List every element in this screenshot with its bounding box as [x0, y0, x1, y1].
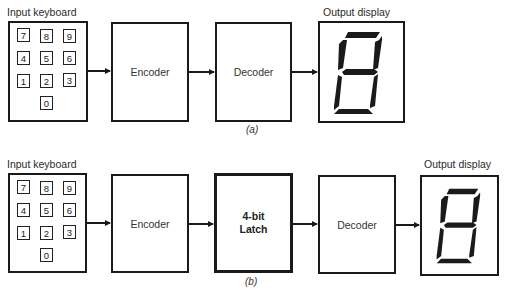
decoder-label: Decoder	[234, 66, 274, 78]
latch-block: 4-bit Latch	[214, 173, 293, 273]
seven-segment-digit-icon	[330, 30, 394, 116]
key-1: 1	[17, 226, 30, 240]
keyboard-label: Input keyboard	[7, 158, 76, 170]
decoder-block: Decoder	[215, 22, 292, 122]
figure-a-caption: (a)	[246, 124, 258, 135]
key-5: 5	[40, 51, 53, 65]
key-6: 6	[63, 203, 76, 217]
arrow-encoder-to-latch	[189, 223, 213, 225]
encoder-block: Encoder	[111, 174, 189, 273]
key-2: 2	[40, 74, 53, 88]
seven-segment-digit-icon	[433, 185, 491, 267]
key-6: 6	[63, 51, 76, 65]
display-label: Output display	[424, 158, 491, 170]
arrow-decoder-to-display	[292, 71, 317, 73]
key-2: 2	[40, 226, 53, 240]
decoder-block: Decoder	[318, 175, 396, 274]
key-4: 4	[17, 51, 30, 65]
latch-label-line1: 4-bit	[242, 210, 264, 223]
arrow-encoder-to-decoder	[189, 71, 214, 73]
key-0: 0	[40, 248, 53, 262]
latch-label-line2: Latch	[239, 223, 267, 236]
display-label: Output display	[323, 6, 390, 18]
key-1: 1	[17, 74, 30, 88]
key-3: 3	[63, 73, 76, 87]
key-0: 0	[40, 96, 53, 110]
keyboard-label: Input keyboard	[7, 6, 76, 18]
key-7: 7	[17, 180, 30, 194]
key-9: 9	[63, 181, 76, 195]
figure-b-caption: (b)	[245, 276, 257, 287]
key-9: 9	[63, 29, 76, 43]
encoder-block: Encoder	[111, 22, 189, 122]
arrow-keyboard-to-encoder	[88, 70, 110, 72]
arrow-keyboard-to-encoder	[87, 222, 110, 224]
encoder-label: Encoder	[130, 66, 169, 78]
arrow-decoder-to-display	[396, 224, 419, 226]
encoder-label: Encoder	[130, 218, 169, 230]
key-4: 4	[17, 203, 30, 217]
key-7: 7	[17, 28, 30, 42]
decoder-label: Decoder	[337, 219, 377, 231]
key-5: 5	[40, 203, 53, 217]
arrow-latch-to-decoder	[293, 223, 317, 225]
key-8: 8	[40, 181, 53, 195]
key-8: 8	[40, 29, 53, 43]
key-3: 3	[63, 225, 76, 239]
